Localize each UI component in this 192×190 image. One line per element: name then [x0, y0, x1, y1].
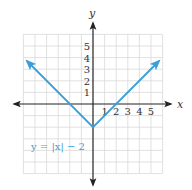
x-axis-label: x — [177, 98, 184, 111]
y-tick-2: 2 — [84, 76, 90, 87]
y-tick-1: 1 — [84, 87, 90, 98]
y-tick-4: 4 — [84, 53, 90, 64]
x-tick-2: 2 — [113, 106, 119, 117]
y-tick-5: 5 — [84, 41, 90, 52]
y-tick-labels: 1 2 3 4 5 — [84, 41, 90, 98]
x-tick-3: 3 — [125, 106, 131, 117]
equation-label: y = |x| − 2 — [30, 141, 85, 153]
x-tick-4: 4 — [136, 106, 142, 117]
y-tick-3: 3 — [84, 64, 90, 75]
y-axis-label: y — [88, 7, 96, 20]
graph: x y 1 2 3 4 5 1 2 3 4 5 y = |x| − 2 — [0, 0, 192, 190]
x-tick-5: 5 — [148, 106, 154, 117]
